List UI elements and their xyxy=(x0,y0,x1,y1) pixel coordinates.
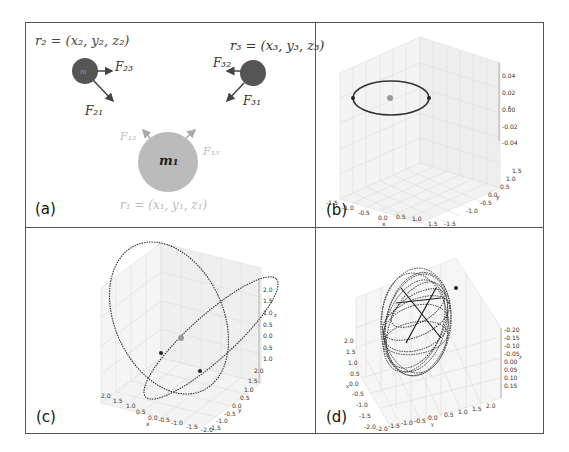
svg-text:-1.0: -1.0 xyxy=(466,207,478,214)
panel-d: -0.20-0.15-0.10-0.050.000.050.100.15 z 2… xyxy=(316,228,544,434)
panel-label-a: (a) xyxy=(35,200,56,218)
svg-text:-1.5: -1.5 xyxy=(388,422,400,429)
svg-text:0.05: 0.05 xyxy=(504,366,518,373)
svg-text:x: x xyxy=(146,420,150,427)
svg-text:1.0: 1.0 xyxy=(244,386,254,393)
svg-text:1.5: 1.5 xyxy=(512,167,522,174)
svg-text:-2.0: -2.0 xyxy=(376,425,388,432)
svg-text:0.5: 0.5 xyxy=(350,370,360,377)
svg-text:-1.0: -1.0 xyxy=(216,417,228,424)
force-label-f31: F₃₁ xyxy=(243,94,261,108)
svg-text:2.0: 2.0 xyxy=(486,402,496,409)
svg-text:2.0: 2.0 xyxy=(101,392,111,399)
svg-text:-0.5: -0.5 xyxy=(158,416,170,423)
svg-text:1.0: 1.0 xyxy=(263,355,273,362)
svg-text:z: z xyxy=(274,312,277,318)
svg-text:0.00: 0.00 xyxy=(504,358,518,365)
svg-text:1.0: 1.0 xyxy=(458,408,468,415)
mass-label-m1: m₁ xyxy=(159,153,178,168)
force-label-f13: F₁₃ xyxy=(203,145,219,158)
svg-text:0.15: 0.15 xyxy=(504,382,518,389)
svg-text:0.0: 0.0 xyxy=(428,414,438,421)
svg-text:-1.5: -1.5 xyxy=(209,424,221,431)
svg-text:-1.5: -1.5 xyxy=(186,423,198,430)
svg-text:y: y xyxy=(238,406,242,414)
svg-text:-0.04: -0.04 xyxy=(502,139,518,146)
svg-text:1.5: 1.5 xyxy=(263,297,273,304)
plot-3d-circular-orbit: 0.040.020.00-0.02-0.04 z -1.5-1.0-0.50.0… xyxy=(316,23,544,227)
svg-text:-2.0: -2.0 xyxy=(364,423,376,430)
svg-text:-0.5: -0.5 xyxy=(352,390,364,397)
svg-text:2.0: 2.0 xyxy=(263,286,273,293)
svg-text:x: x xyxy=(346,383,349,389)
svg-text:-0.5: -0.5 xyxy=(224,410,236,417)
svg-text:0.5: 0.5 xyxy=(500,183,510,190)
svg-text:1.0: 1.0 xyxy=(126,402,136,409)
svg-text:0.5: 0.5 xyxy=(396,213,406,220)
svg-text:0.5: 0.5 xyxy=(263,321,273,328)
panel-label-d: (d) xyxy=(326,408,347,426)
force-label-f21: F₂₁ xyxy=(85,104,103,118)
svg-text:0.0: 0.0 xyxy=(349,380,359,387)
panel-c: 2.01.51.00.50.00.51.0 z 2.01.51.00.50.0-… xyxy=(26,228,315,434)
svg-text:-1.5: -1.5 xyxy=(444,220,456,227)
svg-text:-0.02: -0.02 xyxy=(502,123,518,130)
svg-text:-0.20: -0.20 xyxy=(504,326,520,333)
svg-text:1.0: 1.0 xyxy=(348,359,358,366)
position-label-m2: r₂ = (x₂, y₂, z₂) xyxy=(35,33,129,48)
svg-text:1.5: 1.5 xyxy=(248,377,258,384)
force-label-f23: F₂₃ xyxy=(115,60,133,74)
svg-text:-1.0: -1.0 xyxy=(171,419,183,426)
svg-text:1.0: 1.0 xyxy=(412,215,422,222)
svg-text:-0.5: -0.5 xyxy=(480,199,492,206)
svg-text:2.0: 2.0 xyxy=(344,337,354,344)
svg-text:-0.5: -0.5 xyxy=(414,417,426,424)
position-label-m3: r₃ = (x₃, y₃, z₃) xyxy=(230,38,324,53)
svg-text:z: z xyxy=(508,104,511,110)
svg-text:-0.10: -0.10 xyxy=(504,342,520,349)
panel-label-b: (b) xyxy=(326,201,347,219)
panel-a: m r₂ = (x₂, y₂, z₂) F₂₃ F₂₁ r₃ = (x₃, y₃… xyxy=(25,22,315,227)
svg-text:-1.0: -1.0 xyxy=(401,419,413,426)
svg-text:1.0: 1.0 xyxy=(506,175,516,182)
position-label-m1: r₁ = (x₁, y₁, z₁) xyxy=(120,198,207,212)
svg-text:1.5: 1.5 xyxy=(428,220,438,227)
svg-text:0.5: 0.5 xyxy=(240,394,250,401)
svg-text:0.10: 0.10 xyxy=(504,374,518,381)
svg-text:1.5: 1.5 xyxy=(113,397,123,404)
plot-3d-intersecting-orbits: 2.01.51.00.50.00.51.0 z 2.01.51.00.50.0-… xyxy=(26,228,315,434)
svg-text:-0.15: -0.15 xyxy=(504,334,520,341)
svg-text:-0.05: -0.05 xyxy=(504,350,520,357)
svg-text:0.04: 0.04 xyxy=(502,72,516,79)
svg-text:-0.5: -0.5 xyxy=(358,209,370,216)
svg-text:1.5: 1.5 xyxy=(472,405,482,412)
svg-text:z: z xyxy=(519,354,522,360)
panel-b: 0.040.020.00-0.02-0.04 z -1.5-1.0-0.50.0… xyxy=(316,23,544,227)
svg-text:y: y xyxy=(431,421,434,428)
svg-text:2.0: 2.0 xyxy=(254,367,264,374)
svg-text:0.5: 0.5 xyxy=(263,344,273,351)
svg-text:0.0: 0.0 xyxy=(263,332,273,339)
force-label-f12: F₁₂ xyxy=(120,130,136,143)
force-label-f32: F₃₂ xyxy=(213,56,231,70)
svg-text:1.0: 1.0 xyxy=(263,309,273,316)
panel-label-c: (c) xyxy=(36,408,56,426)
svg-text:x: x xyxy=(382,220,386,227)
svg-text:y: y xyxy=(496,193,500,201)
svg-text:1.5: 1.5 xyxy=(346,348,356,355)
svg-text:-1.0: -1.0 xyxy=(356,401,368,408)
svg-text:m: m xyxy=(80,68,87,76)
svg-text:0.02: 0.02 xyxy=(502,89,516,96)
plot-3d-chaotic-orbits: -0.20-0.15-0.10-0.050.000.050.100.15 z 2… xyxy=(316,228,544,434)
svg-text:0.5: 0.5 xyxy=(136,408,146,415)
svg-text:0.5: 0.5 xyxy=(444,411,454,418)
body-m3 xyxy=(240,60,266,86)
svg-text:-1.5: -1.5 xyxy=(359,412,371,419)
